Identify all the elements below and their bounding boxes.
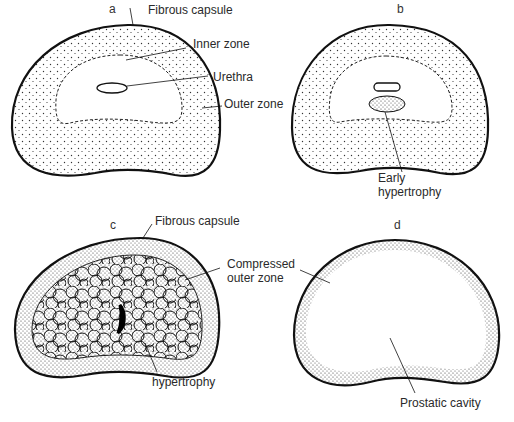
urethra-b	[374, 83, 400, 91]
label-hypertrophy-b: hypertrophy	[378, 186, 441, 199]
urethra-a	[97, 83, 127, 93]
panel-letter-a: a	[109, 2, 116, 16]
label-outer-zone-c: outer zone	[227, 272, 284, 285]
prostate-diagram	[0, 0, 514, 422]
panel-a	[12, 8, 222, 176]
label-outer-zone: Outer zone	[224, 98, 283, 111]
panel-letter-d: d	[394, 218, 401, 232]
panel-b	[292, 25, 488, 174]
panel-letter-b: b	[397, 2, 404, 16]
label-early: Early	[378, 172, 405, 185]
label-compressed: Compressed	[227, 258, 295, 271]
label-urethra: Urethra	[213, 71, 253, 84]
panel-c	[15, 224, 220, 378]
label-hypertrophy-c: hypertrophy	[152, 376, 215, 389]
label-fibrous-capsule-c: Fibrous capsule	[155, 215, 240, 228]
panel-d	[294, 240, 499, 393]
label-prostatic-cavity: Prostatic cavity	[400, 397, 481, 410]
panel-letter-c: c	[110, 218, 116, 232]
label-inner-zone: Inner zone	[193, 38, 250, 51]
early-hypertrophy-nodule	[369, 96, 405, 112]
label-fibrous-capsule-a: Fibrous capsule	[148, 4, 233, 17]
